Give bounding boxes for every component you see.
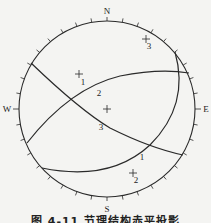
pole-3-label: 3	[147, 41, 152, 51]
pole-2-label: 2	[134, 175, 139, 185]
great-circle-3-label: 3	[99, 122, 104, 132]
north-label: N	[104, 6, 111, 16]
pole-1-label: 1	[81, 77, 86, 87]
west-label: W	[3, 104, 12, 114]
center-cross-icon	[103, 105, 111, 113]
figure-caption: 图 4-11 节理结构赤平投影	[0, 212, 211, 223]
great-circle-3	[42, 52, 179, 172]
great-circle-2-label: 2	[97, 88, 102, 98]
east-label: E	[203, 104, 209, 114]
great-circle-1-label: 1	[140, 152, 145, 162]
stereonet: N S W E 2 3 1 1 3 2	[0, 0, 211, 223]
